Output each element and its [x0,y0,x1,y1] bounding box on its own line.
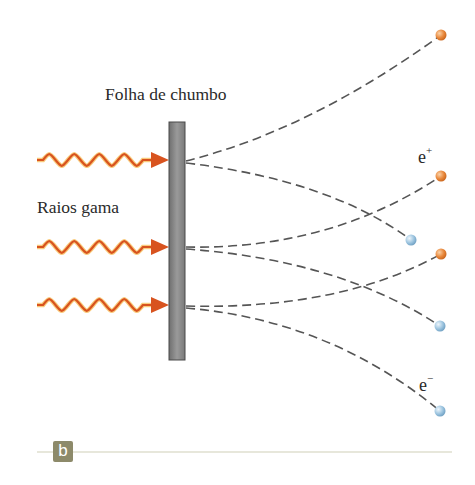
gamma-rays-label: Raios gama [37,197,119,218]
arrowhead-icon [151,239,169,255]
lead-foil-label: Folha de chumbo [105,84,227,105]
electron-label-sup: − [427,372,433,384]
positron-particle-icon [436,30,447,41]
positron-track [186,176,441,247]
particles [406,30,447,417]
electron-particle-icon [435,321,446,332]
panel-label-badge: b [53,441,73,462]
diagram-canvas [0,0,475,485]
positron-particle-icon [436,249,447,260]
arrowhead-icon [151,297,169,313]
gamma-ray-wave [37,239,169,255]
positron-particle-icon [436,171,447,182]
electron-label-base: e [419,375,427,395]
electron-particle-icon [435,406,446,417]
electron-track [186,163,411,240]
gamma-ray-wave [37,297,169,313]
positron-track [186,254,441,306]
lead-foil-plate [169,122,185,360]
positron-label-base: e [418,147,426,167]
electron-track [186,308,440,411]
gamma-ray-wave [37,152,169,168]
electron-particle-icon [406,235,417,246]
arrowhead-icon [151,152,169,168]
gamma-ray-waves [37,152,169,313]
electron-label: e− [419,374,433,396]
positron-label-sup: + [426,144,432,156]
positron-label: e+ [418,146,432,168]
electron-track [186,249,440,326]
pair-production-diagram: Folha de chumbo Raios gama e+ e− b [0,0,475,485]
